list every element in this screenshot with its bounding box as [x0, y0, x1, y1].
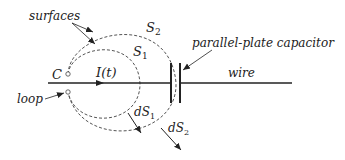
label-current: I(t) [95, 65, 117, 80]
loop-point-top [66, 72, 70, 76]
label-s1: S1 [133, 44, 148, 61]
current-arrow-icon [96, 80, 104, 86]
label-capacitor: parallel-plate capacitor [192, 36, 335, 50]
surfaces-pointer-s1 [72, 23, 95, 44]
label-loop: loop [17, 92, 43, 106]
loop-point-bottom [66, 90, 70, 94]
capacitor-pointer [183, 50, 212, 70]
diagram-canvas: surfaces S2 S1 parallel-plate capacitor … [0, 0, 345, 160]
loop-pointer [45, 93, 64, 99]
label-ds1: dS1 [134, 105, 155, 121]
surface-s1 [68, 50, 140, 118]
label-s2: S2 [146, 20, 161, 37]
label-surfaces: surfaces [29, 9, 80, 23]
label-c: C [52, 67, 62, 82]
surfaces-pointer-s2 [72, 23, 93, 32]
label-ds2: dS2 [168, 121, 189, 137]
label-wire: wire [228, 66, 255, 80]
